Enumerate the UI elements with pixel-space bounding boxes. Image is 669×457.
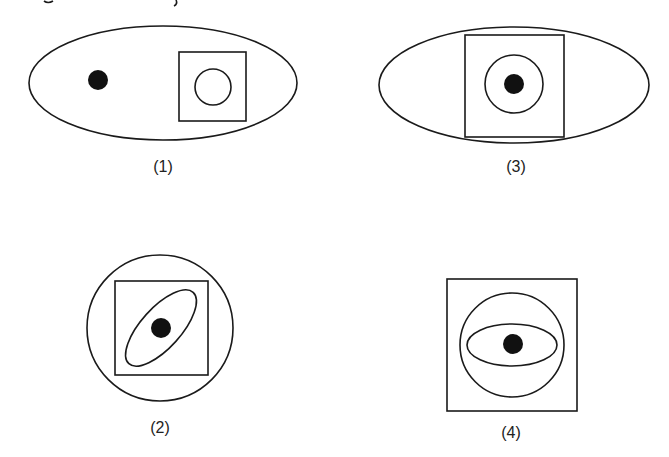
panel-1 xyxy=(29,26,297,140)
diagram-canvas xyxy=(0,0,669,457)
square xyxy=(179,52,246,121)
panel-3 xyxy=(379,27,649,143)
black-dot xyxy=(151,318,171,338)
panel-2-label: (2) xyxy=(150,419,170,437)
panel-4 xyxy=(447,279,577,411)
panel-3-label: (3) xyxy=(506,158,526,176)
panel-1-label: (1) xyxy=(153,158,173,176)
inner-circle xyxy=(195,69,231,105)
panel-2 xyxy=(87,255,233,401)
panel-4-label: (4) xyxy=(501,424,521,442)
black-dot xyxy=(88,70,108,90)
black-dot xyxy=(504,74,524,94)
black-dot xyxy=(503,334,523,354)
outer-ellipse xyxy=(29,26,297,140)
cropped-caption-fragment xyxy=(44,0,177,6)
